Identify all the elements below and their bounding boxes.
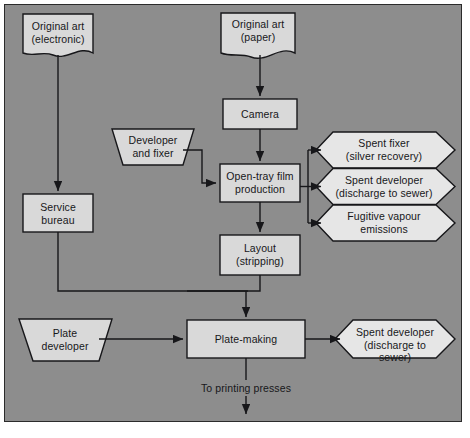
shape-spent-developer-film[interactable] — [316, 169, 455, 205]
shape-spent-fixer[interactable] — [316, 132, 455, 168]
flowchart-page: Original art (electronic) Original art (… — [0, 0, 470, 438]
label-to-printing-presses: To printing presses — [186, 382, 306, 395]
shape-plate-making[interactable] — [187, 320, 305, 358]
shape-fugitive-vapour-emissions[interactable] — [316, 205, 455, 241]
connector-developer-to-open-tray — [183, 150, 216, 183]
shape-original-art-electronic[interactable] — [23, 14, 93, 56]
shape-layout-stripping[interactable] — [220, 235, 300, 275]
shape-plate-developer[interactable] — [19, 319, 112, 361]
diagram-canvas — [5, 5, 462, 422]
diagram-frame: Original art (electronic) Original art (… — [4, 4, 462, 422]
shape-original-art-paper[interactable] — [221, 13, 295, 58]
shape-camera[interactable] — [223, 99, 297, 129]
shape-spent-developer-plate[interactable] — [335, 320, 455, 358]
connector-layout-to-plate-making — [187, 275, 260, 291]
shape-service-bureau[interactable] — [23, 194, 93, 232]
shape-open-tray-film-production[interactable] — [220, 164, 300, 202]
shape-developer-and-fixer[interactable] — [112, 129, 194, 165]
